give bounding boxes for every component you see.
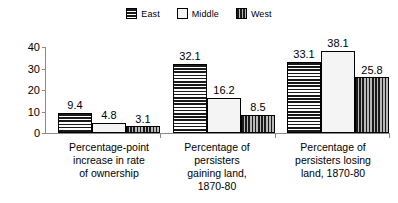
x-axis-line	[45, 133, 390, 134]
y-tick-mark-40	[42, 47, 46, 48]
bar-value-west-group1: 3.1	[126, 114, 160, 125]
bar-value-east-group3: 33.1	[287, 49, 321, 60]
category-label-group3-line1: Percentage of	[272, 141, 394, 154]
x-tick-separator-2	[275, 134, 276, 138]
bar-east-group1	[58, 113, 92, 133]
bar-middle-group1	[92, 123, 126, 133]
bar-value-east-group2: 32.1	[173, 51, 207, 62]
y-tick-mark-30	[42, 69, 46, 70]
y-tick-mark-0	[42, 133, 46, 134]
bar-chart-plot-area: 40 30 20 10 0 9.4 4.8 3.1 32.1 16.2 8.5 …	[0, 0, 398, 203]
y-tick-label-0: 0	[18, 128, 40, 139]
bar-east-group3	[287, 62, 321, 133]
bar-value-middle-group3: 38.1	[321, 38, 355, 49]
x-tick-separator-3	[389, 134, 390, 138]
category-label-group2-line2: persisters	[159, 154, 275, 167]
category-label-group2-line3: gaining land,	[159, 167, 275, 180]
category-label-group1-line2: increase in rate	[41, 154, 177, 167]
bar-west-group1	[126, 126, 160, 133]
category-label-group1-line3: of ownership	[41, 167, 177, 180]
category-label-group2-line1: Percentage of	[159, 141, 275, 154]
bar-middle-group2	[207, 98, 241, 133]
bar-west-group2	[241, 115, 275, 133]
bar-value-middle-group2: 16.2	[207, 85, 241, 96]
category-label-group1: Percentage-point increase in rate of own…	[41, 141, 177, 180]
category-label-group1-line1: Percentage-point	[41, 141, 177, 154]
y-tick-label-20: 20	[18, 85, 40, 96]
x-tick-separator-1	[160, 134, 161, 138]
y-tick-mark-10	[42, 112, 46, 113]
y-tick-mark-20	[42, 90, 46, 91]
y-tick-label-30: 30	[18, 64, 40, 75]
y-tick-label-10: 10	[18, 107, 40, 118]
bar-value-west-group3: 25.8	[355, 65, 389, 76]
category-label-group3: Percentage of persisters losing land, 18…	[272, 141, 394, 180]
category-label-group2: Percentage of persisters gaining land, 1…	[159, 141, 275, 193]
bar-value-middle-group1: 4.8	[92, 110, 126, 121]
bar-value-east-group1: 9.4	[58, 100, 92, 111]
y-tick-label-40: 40	[18, 42, 40, 53]
bar-east-group2	[173, 64, 207, 133]
category-label-group3-line2: persisters losing	[272, 154, 394, 167]
bar-value-west-group2: 8.5	[241, 102, 275, 113]
bar-middle-group3	[321, 51, 355, 133]
bar-west-group3	[355, 77, 389, 133]
category-label-group2-line4: 1870-80	[159, 180, 275, 193]
category-label-group3-line3: land, 1870-80	[272, 167, 394, 180]
